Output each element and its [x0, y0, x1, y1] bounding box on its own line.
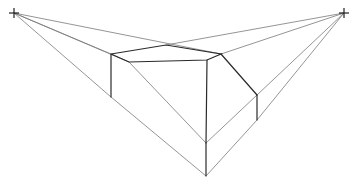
- perspective-svg: [0, 0, 357, 184]
- perspective-drawing: Two-point perspective sketch of a box: [0, 0, 357, 184]
- left-guide-lines: [14, 13, 221, 176]
- box-edges: [111, 45, 257, 176]
- right-guide-lines: [166, 13, 344, 176]
